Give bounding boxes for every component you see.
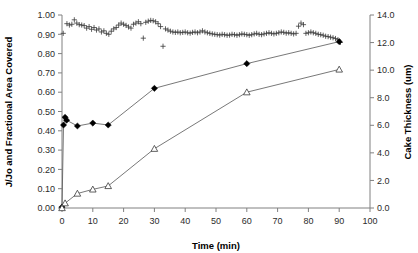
x-tick-label: 90 [334,216,344,226]
x-tick-label: 40 [180,216,190,226]
x-tick-label: 70 [273,216,283,226]
chart-canvas: 0.000.100.200.300.400.500.600.700.800.90… [0,0,418,253]
y-axis-left-title: J/Jo and Fractional Area Covered [3,36,14,187]
y-tick-label: 0.80 [37,49,55,59]
x-tick-label: 0 [59,216,64,226]
x-tick-label: 50 [211,216,221,226]
x-tick-label: 30 [149,216,159,226]
y2-tick-label: 0.0 [377,203,390,213]
y-tick-label: 0.10 [37,184,55,194]
y-tick-label: 0.50 [37,107,55,117]
y-tick-label: 0.40 [37,126,55,136]
x-axis-title: Time (min) [192,240,240,251]
chart-figure: 0.000.100.200.300.400.500.600.700.800.90… [0,0,418,253]
x-tick-label: 80 [303,216,313,226]
y2-tick-label: 12.0 [377,38,395,48]
y-tick-label: 0.20 [37,165,55,175]
y-axis-right-title: Cake Thickness (um) [402,64,413,159]
x-tick-label: 60 [242,216,252,226]
y-tick-label: 0.70 [37,68,55,78]
y2-tick-label: 6.0 [377,120,390,130]
y2-tick-label: 2.0 [377,176,390,186]
y2-tick-label: 8.0 [377,93,390,103]
y-tick-label: 0.00 [37,203,55,213]
y-tick-label: 0.90 [37,30,55,40]
y-tick-label: 1.00 [37,10,55,20]
y2-tick-label: 10.0 [377,65,395,75]
y-tick-label: 0.60 [37,87,55,97]
y-tick-label: 0.30 [37,145,55,155]
x-tick-label: 10 [88,216,98,226]
x-tick-label: 100 [362,216,377,226]
y2-tick-label: 14.0 [377,10,395,20]
y2-tick-label: 4.0 [377,148,390,158]
x-tick-label: 20 [119,216,129,226]
